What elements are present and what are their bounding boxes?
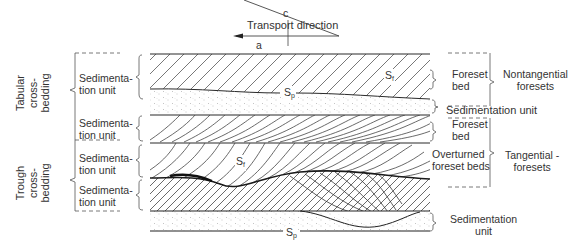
sf-bottom-s: S <box>236 155 243 167</box>
sedimentation-unit-2-line1: Sedimentation <box>450 213 517 225</box>
tabular-line1: Tabular <box>14 57 27 129</box>
sf-top-s: S <box>385 69 392 81</box>
tangential-foreset-bed <box>150 115 444 142</box>
nontangential-line2: foresets <box>503 80 568 92</box>
sp-mid-sub: p <box>291 92 295 99</box>
tabular-line3: bedding <box>39 57 52 129</box>
left-unit-4-line1: Sedimenta- <box>79 184 133 196</box>
overturned-foreset-beds-label: Overturned foreset beds <box>432 148 490 172</box>
foreset-bed-2-label: Foreset bed <box>452 118 488 142</box>
tangential-line2: foresets <box>505 161 559 173</box>
tabular-cross-bedding-label: Tabular cross- bedding <box>14 57 54 129</box>
left-unit-2-label: Sedimenta- tion unit <box>79 117 133 141</box>
left-unit-3-label: Sedimenta- tion unit <box>79 152 133 176</box>
overturned-line2: foreset beds <box>432 160 490 172</box>
sp-bottom-sub: p <box>293 232 297 239</box>
axis-a-label: a <box>256 39 262 51</box>
foreset-bed-1-line1: Foreset <box>452 68 488 80</box>
foreset-bed-1-label: Foreset bed <box>452 68 488 92</box>
trough-line2: cross- <box>27 147 40 219</box>
trough-lower-unit <box>150 170 430 215</box>
trough-cross-bedding-label: Trough cross- bedding <box>14 147 54 219</box>
sp-mid-s: S <box>284 86 291 98</box>
sf-bottom-sub: f <box>243 161 245 168</box>
sf-top-sub: f <box>392 75 394 82</box>
sedimentation-unit-2-label: Sedimentation unit <box>450 213 517 237</box>
left-unit-1-line2: tion unit <box>79 84 133 96</box>
sedimentation-unit-2-line2: unit <box>450 225 517 237</box>
foreset-bed-1-line2: bed <box>452 80 488 92</box>
axis-c-label: c <box>283 7 288 19</box>
transport-direction-label: Transport direction <box>247 19 338 31</box>
foreset-bed-2-line1: Foreset <box>452 118 488 130</box>
foreset-bed-2-line2: bed <box>452 130 488 142</box>
overturned-line1: Overturned <box>432 148 490 160</box>
left-unit-1-label: Sedimenta- tion unit <box>79 72 133 96</box>
sp-mid-label: Sp <box>283 86 296 102</box>
sf-bottom-label: Sf <box>235 155 246 171</box>
left-unit-4-line2: tion unit <box>79 196 133 208</box>
sp-bottom-label: Sp <box>285 226 298 242</box>
sedimentation-unit-1-label: Sedimentation unit <box>446 104 537 116</box>
tabular-line2: cross- <box>27 57 40 129</box>
trough-line3: bedding <box>39 147 52 219</box>
left-unit-2-line2: tion unit <box>79 129 133 141</box>
nontangential-foresets-label: Nontangential foresets <box>503 68 568 92</box>
left-unit-4-label: Sedimenta- tion unit <box>79 184 133 208</box>
sf-top-label: Sf <box>384 69 395 85</box>
left-unit-1-line1: Sedimenta- <box>79 72 133 84</box>
tangential-foresets-label: Tangential - foresets <box>505 149 559 173</box>
left-unit-3-line2: tion unit <box>79 164 133 176</box>
sp-bottom-s: S <box>286 226 293 238</box>
left-unit-2-line1: Sedimenta- <box>79 117 133 129</box>
left-unit-3-line1: Sedimenta- <box>79 152 133 164</box>
tangential-line1: Tangential - <box>505 149 559 161</box>
trough-line1: Trough <box>14 147 27 219</box>
nontangential-line1: Nontangential <box>503 68 568 80</box>
